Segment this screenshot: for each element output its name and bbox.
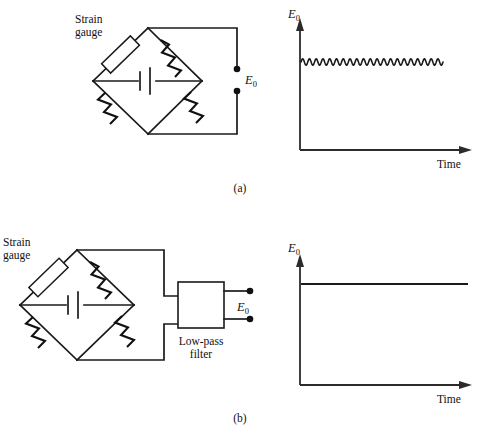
figure-root: Strain gauge E0 E0 Time (a) (0, 0, 495, 434)
caption-a: (a) (234, 182, 247, 195)
strain-gauge-body (102, 36, 140, 73)
circuit-output-label-sub: 0 (253, 79, 257, 89)
signal-trace-noisy (301, 59, 443, 65)
x-axis-arrowhead-a (459, 146, 472, 154)
strain-gauge-label-line2: gauge (75, 26, 102, 39)
x-axis-arrowhead-b (459, 381, 472, 389)
circuit-b-output-label: E0 (236, 300, 249, 316)
resistor-b-lower-left (26, 317, 45, 348)
y-axis-label-a: E0 (287, 7, 300, 23)
y-axis-label-b-text: E (287, 241, 296, 255)
strain-gauge-label-b-line1: Strain (3, 236, 31, 248)
strain-gauge-label-b-line2: gauge (3, 249, 30, 262)
filter-output-terminal-bottom (247, 316, 254, 323)
y-axis-label-a-sub: 0 (296, 13, 300, 23)
low-pass-filter-box (178, 282, 224, 328)
strain-gauge-body-b (29, 258, 68, 297)
caption-b: (b) (233, 412, 247, 425)
filter-label-line1: Low-pass (179, 335, 224, 348)
x-axis-label-b: Time (437, 393, 461, 405)
circuit-output-label: E0 (244, 73, 257, 89)
x-axis-label-a: Time (437, 158, 461, 170)
bridge-b-arm-lower-right (77, 305, 134, 360)
strain-gauge-label-line1: Strain (75, 13, 103, 25)
resistor-lower-left (98, 93, 117, 124)
resistor-lower-right (184, 92, 203, 123)
y-axis-label-b: E0 (287, 241, 300, 257)
circuit-diagram-b: Strain gauge Low-pass filter E0 (3, 236, 253, 360)
circuit-b-output-label-text: E (236, 300, 245, 314)
filter-label-line2: filter (190, 348, 213, 360)
bridge-arm-upper-right (148, 28, 202, 81)
output-terminal-bottom (234, 88, 241, 95)
resistor-b-lower-right (115, 316, 134, 347)
circuit-output-label-text: E (244, 73, 253, 87)
output-terminal-top (234, 66, 241, 73)
strain-gauge-element-b (29, 258, 68, 297)
plot-noisy-output: E0 Time (287, 7, 472, 170)
circuit-diagram-a: Strain gauge E0 (75, 13, 257, 134)
plot-filtered-output: E0 Time (287, 241, 472, 405)
output-lead-top (148, 28, 237, 68)
filter-output-terminal-top (247, 288, 254, 295)
y-axis-label-a-text: E (287, 7, 296, 21)
strain-gauge-element (102, 36, 140, 73)
y-axis-label-b-sub: 0 (296, 247, 300, 257)
circuit-b-output-label-sub: 0 (245, 306, 249, 316)
bridge-b-arm-upper-right (77, 250, 134, 305)
